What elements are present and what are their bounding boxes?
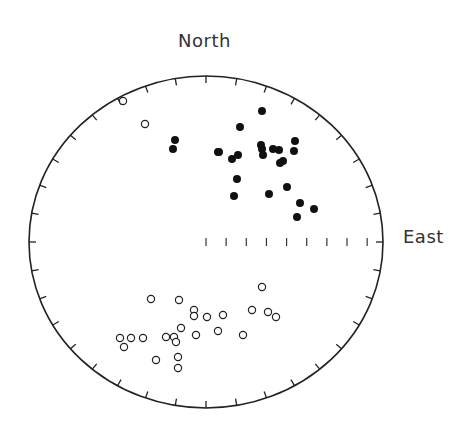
perimeter-tick bbox=[315, 115, 319, 120]
filled-data-point bbox=[233, 175, 241, 183]
open-data-point bbox=[203, 313, 210, 320]
open-data-point bbox=[175, 296, 182, 303]
open-data-point bbox=[119, 97, 126, 104]
perimeter-tick bbox=[92, 115, 96, 120]
filled-data-point bbox=[291, 137, 299, 145]
filled-data-point bbox=[236, 123, 244, 131]
filled-data-point bbox=[279, 157, 287, 165]
open-data-point bbox=[120, 343, 127, 350]
perimeter-tick bbox=[353, 322, 359, 326]
open-data-point bbox=[219, 311, 226, 318]
open-data-point bbox=[239, 331, 246, 338]
filled-data-point bbox=[171, 136, 179, 144]
perimeter-tick bbox=[92, 364, 96, 369]
perimeter-tick bbox=[40, 296, 47, 298]
open-data-point bbox=[174, 353, 181, 360]
perimeter-tick bbox=[336, 344, 341, 348]
perimeter-tick bbox=[70, 135, 75, 139]
perimeter-tick bbox=[53, 159, 59, 163]
open-data-point bbox=[174, 364, 181, 371]
open-data-point bbox=[192, 331, 199, 338]
filled-data-point bbox=[290, 147, 298, 155]
stereonet-plot bbox=[0, 0, 472, 438]
filled-data-point bbox=[293, 213, 301, 221]
filled-data-point bbox=[230, 192, 238, 200]
filled-data-point bbox=[234, 151, 242, 159]
open-data-point bbox=[139, 334, 146, 341]
filled-data-point bbox=[265, 190, 273, 198]
filled-data-point bbox=[275, 146, 283, 154]
open-data-point bbox=[214, 327, 221, 334]
perimeter-tick bbox=[366, 185, 373, 187]
perimeter-tick bbox=[336, 135, 341, 139]
open-data-points bbox=[116, 97, 279, 371]
perimeter-tick bbox=[315, 364, 319, 369]
perimeter-tick bbox=[53, 322, 59, 326]
perimeter-tick bbox=[145, 86, 147, 93]
perimeter-tick bbox=[32, 213, 39, 214]
filled-data-point bbox=[310, 205, 318, 213]
perimeter-tick bbox=[373, 270, 380, 271]
perimeter-tick bbox=[353, 159, 359, 163]
perimeter-tick bbox=[366, 296, 373, 298]
open-data-point bbox=[162, 333, 169, 340]
perimeter-tick bbox=[175, 399, 176, 406]
perimeter-tick bbox=[70, 344, 75, 348]
open-data-point bbox=[147, 295, 154, 302]
filled-data-points bbox=[169, 107, 318, 221]
open-data-point bbox=[190, 312, 197, 319]
perimeter-tick bbox=[373, 213, 380, 214]
perimeter-tick bbox=[175, 79, 176, 86]
filled-data-point bbox=[296, 199, 304, 207]
filled-data-point bbox=[258, 107, 266, 115]
filled-data-point bbox=[259, 151, 267, 159]
perimeter-tick bbox=[145, 391, 147, 398]
open-data-point bbox=[141, 120, 148, 127]
open-data-point bbox=[127, 334, 134, 341]
perimeter-tick bbox=[264, 391, 266, 398]
open-data-point bbox=[272, 313, 279, 320]
open-data-point bbox=[116, 334, 123, 341]
perimeter-tick bbox=[40, 185, 47, 187]
perimeter-tick bbox=[32, 270, 39, 271]
east-radius-ticks bbox=[206, 238, 367, 246]
north-label: North bbox=[178, 30, 231, 51]
perimeter-tick bbox=[236, 79, 237, 86]
perimeter-tick bbox=[118, 380, 122, 386]
open-data-point bbox=[152, 356, 159, 363]
perimeter-tick bbox=[264, 86, 266, 93]
perimeter-tick bbox=[291, 98, 295, 104]
filled-data-point bbox=[169, 145, 177, 153]
open-data-point bbox=[258, 283, 265, 290]
perimeter-tick bbox=[236, 399, 237, 406]
filled-data-point bbox=[215, 148, 223, 156]
perimeter-tick bbox=[291, 380, 295, 386]
east-label: East bbox=[403, 226, 444, 247]
open-data-point bbox=[264, 308, 271, 315]
open-data-point bbox=[248, 306, 255, 313]
open-data-point bbox=[177, 324, 184, 331]
filled-data-point bbox=[283, 183, 291, 191]
open-data-point bbox=[172, 338, 179, 345]
